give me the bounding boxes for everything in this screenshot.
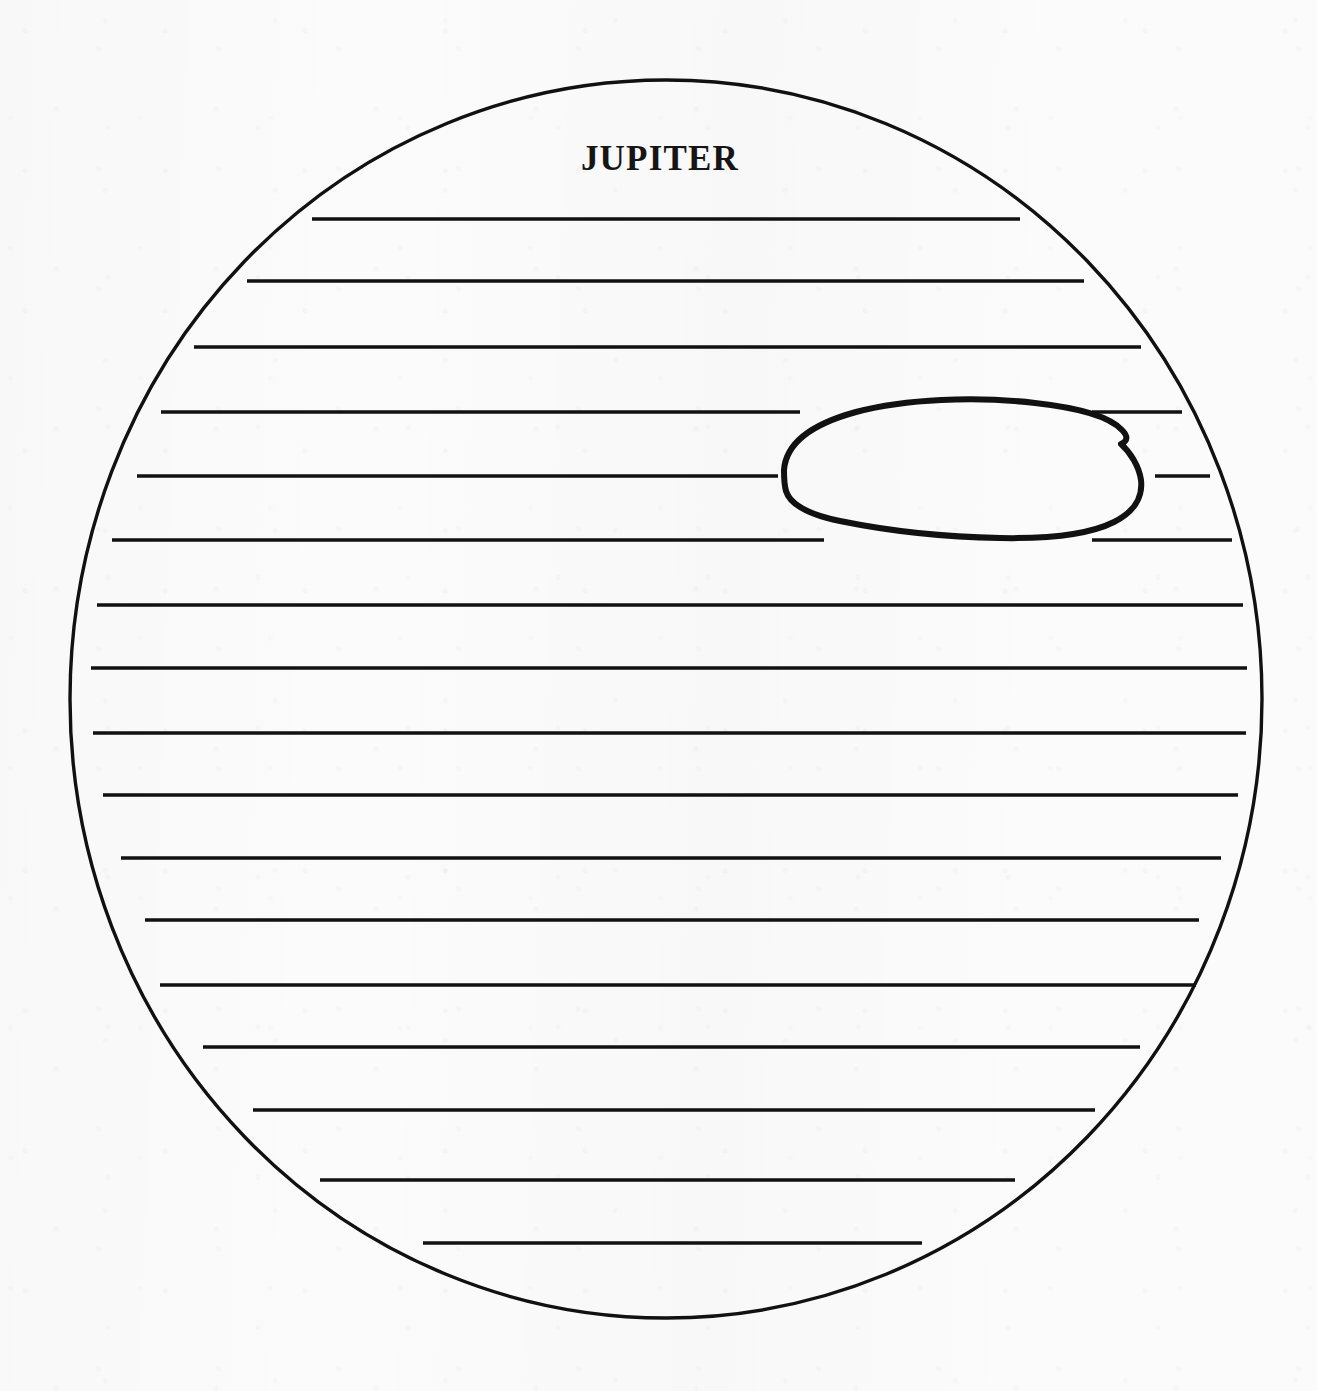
cloud-band-lines [91, 219, 1247, 1243]
page-title: JUPITER [581, 139, 739, 178]
planet-outline-circle [70, 80, 1262, 1318]
great-red-spot-outline [784, 399, 1141, 538]
jupiter-diagram: JUPITER [0, 0, 1317, 1391]
worksheet-page: JUPITER [0, 0, 1317, 1391]
